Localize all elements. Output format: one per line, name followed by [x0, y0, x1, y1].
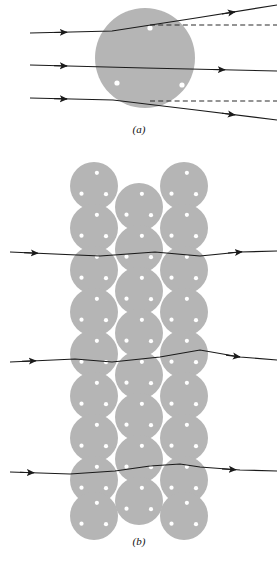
sphere-dot	[149, 297, 153, 301]
sphere-dot	[149, 423, 153, 427]
sphere-lattice	[70, 162, 208, 540]
sphere-small	[160, 288, 208, 336]
sphere-dot	[169, 234, 173, 238]
sphere-dot	[104, 402, 108, 406]
sphere-dot	[169, 486, 173, 490]
sphere-dot	[194, 192, 198, 196]
sphere-dot	[95, 213, 99, 217]
sphere-dot	[124, 507, 128, 511]
sphere-dot	[124, 381, 128, 385]
sphere-dot	[185, 501, 189, 505]
sphere-dot	[95, 465, 99, 469]
sphere-dot	[194, 486, 198, 490]
sphere-dot	[179, 82, 184, 87]
sphere-dot	[147, 25, 152, 30]
sphere-small	[115, 351, 163, 399]
sphere-dot	[140, 486, 144, 490]
sphere-dot	[185, 381, 189, 385]
sphere-dot	[194, 234, 198, 238]
panel-b-label: (b)	[133, 535, 146, 548]
sphere-dot	[95, 297, 99, 301]
sphere-dot	[149, 381, 153, 385]
sphere-dot	[194, 360, 198, 364]
sphere-dot	[169, 192, 173, 196]
sphere-dot	[104, 276, 108, 280]
sphere-dot	[124, 423, 128, 427]
sphere-dot	[79, 234, 83, 238]
sphere-dot	[95, 381, 99, 385]
sphere-small	[115, 393, 163, 441]
sphere-dot	[124, 339, 128, 343]
sphere-dot	[79, 192, 83, 196]
sphere-dot	[124, 297, 128, 301]
sphere-dot	[104, 486, 108, 490]
sphere-dot	[104, 522, 108, 526]
sphere-dot	[140, 444, 144, 448]
sphere-small	[115, 435, 163, 483]
sphere-dot	[124, 465, 128, 469]
sphere-dot	[194, 444, 198, 448]
sphere-small	[160, 162, 208, 210]
sphere-dot	[95, 423, 99, 427]
ray-arrowhead	[24, 253, 38, 254]
refraction-figure: (a) (b)	[0, 0, 277, 562]
sphere-dot	[95, 171, 99, 175]
sphere-dot	[114, 80, 119, 85]
sphere-dot	[140, 234, 144, 238]
sphere-dot	[169, 522, 173, 526]
sphere-dot	[140, 360, 144, 364]
sphere-dot	[140, 318, 144, 322]
ray-arrowhead	[222, 469, 236, 470]
sphere-large	[95, 8, 195, 108]
sphere-small	[160, 204, 208, 252]
sphere-small	[70, 372, 118, 420]
sphere-dot	[194, 276, 198, 280]
sphere-dot	[194, 402, 198, 406]
sphere-small	[115, 183, 163, 231]
sphere-dot	[79, 486, 83, 490]
sphere-small	[115, 225, 163, 273]
sphere-small	[160, 330, 208, 378]
sphere-small	[160, 414, 208, 462]
sphere-dot	[95, 339, 99, 343]
sphere-dot	[169, 318, 173, 322]
sphere-small	[115, 309, 163, 357]
sphere-dot	[140, 402, 144, 406]
sphere-small	[70, 414, 118, 462]
sphere-dot	[79, 444, 83, 448]
figure-root: (a) (b)	[0, 0, 277, 562]
sphere-dot	[104, 234, 108, 238]
ray-arrowhead	[20, 472, 34, 473]
sphere-dot	[169, 360, 173, 364]
sphere-dot	[185, 213, 189, 217]
sphere-dot	[185, 297, 189, 301]
sphere-dot	[169, 444, 173, 448]
panel-a-label: (a)	[133, 123, 146, 136]
sphere-small	[160, 492, 208, 540]
sphere-small	[70, 330, 118, 378]
sphere-dot	[140, 276, 144, 280]
sphere-small	[70, 204, 118, 252]
sphere-dot	[149, 213, 153, 217]
ray-arrowhead	[22, 361, 36, 362]
sphere-small	[70, 246, 118, 294]
sphere-dot	[124, 213, 128, 217]
sphere-dot	[149, 339, 153, 343]
sphere-small	[115, 477, 163, 525]
sphere-dot	[194, 318, 198, 322]
sphere-dot	[104, 318, 108, 322]
sphere-dot	[194, 522, 198, 526]
sphere-dot	[79, 402, 83, 406]
sphere-dot	[185, 171, 189, 175]
sphere-dot	[140, 192, 144, 196]
sphere-dot	[79, 276, 83, 280]
sphere-dot	[104, 192, 108, 196]
sphere-dot	[79, 522, 83, 526]
sphere-dot	[149, 507, 153, 511]
sphere-dot	[185, 423, 189, 427]
sphere-dot	[169, 402, 173, 406]
sphere-small	[70, 162, 118, 210]
sphere-small	[160, 372, 208, 420]
sphere-small	[70, 492, 118, 540]
sphere-dot	[149, 255, 153, 259]
